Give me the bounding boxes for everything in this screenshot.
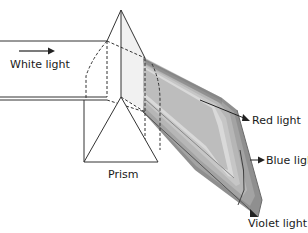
spectrum-fan [143, 58, 262, 217]
prism-label: Prism [108, 168, 138, 181]
violet-light-label: Violet light [248, 217, 308, 230]
blue-light-pointer [250, 157, 265, 164]
prism-side-face [121, 10, 145, 110]
blue-light-label: Blue light [266, 154, 308, 167]
prism-dispersion-diagram: White light Prism Red light Blue light V… [0, 0, 308, 233]
white-light-label: White light [10, 58, 71, 71]
arrow-right-icon [19, 48, 55, 55]
red-light-label: Red light [252, 114, 301, 127]
